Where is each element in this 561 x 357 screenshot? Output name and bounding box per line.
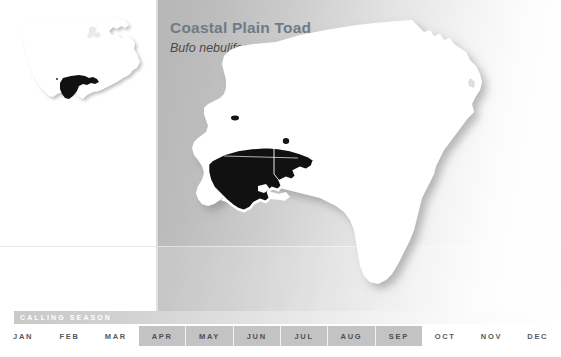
footer-rule	[0, 346, 561, 347]
month-cell-apr[interactable]: APR	[139, 326, 185, 346]
month-cell-jan[interactable]: JAN	[0, 326, 46, 346]
month-cell-nov[interactable]: NOV	[468, 326, 514, 346]
month-cell-dec[interactable]: DEC	[515, 326, 561, 346]
inset-range-dot	[56, 78, 58, 80]
range-outlier-dot-2	[283, 138, 289, 144]
range-outlier-dot-1	[231, 116, 239, 121]
month-cell-feb[interactable]: FEB	[46, 326, 92, 346]
month-cell-mar[interactable]: MAR	[93, 326, 139, 346]
calling-season-label: CALLING SEASON	[20, 312, 112, 323]
range-map-card: Coastal Plain Toad Bufo nebulifer	[0, 0, 561, 357]
month-cell-jun[interactable]: JUN	[233, 326, 280, 346]
month-cell-sep[interactable]: SEP	[375, 326, 422, 346]
month-cell-may[interactable]: MAY	[185, 326, 232, 346]
month-cell-jul[interactable]: JUL	[280, 326, 327, 346]
inset-usa-landmass	[23, 17, 140, 99]
panel-hairline-left	[0, 246, 157, 247]
month-cell-oct[interactable]: OCT	[422, 326, 468, 346]
month-scale[interactable]: JAN FEB MAR APR MAY JUN JUL AUG SEP OCT …	[0, 326, 561, 346]
main-range-map[interactable]	[150, 8, 561, 313]
month-cell-aug[interactable]: AUG	[327, 326, 374, 346]
inset-locator-map[interactable]	[13, 12, 151, 125]
